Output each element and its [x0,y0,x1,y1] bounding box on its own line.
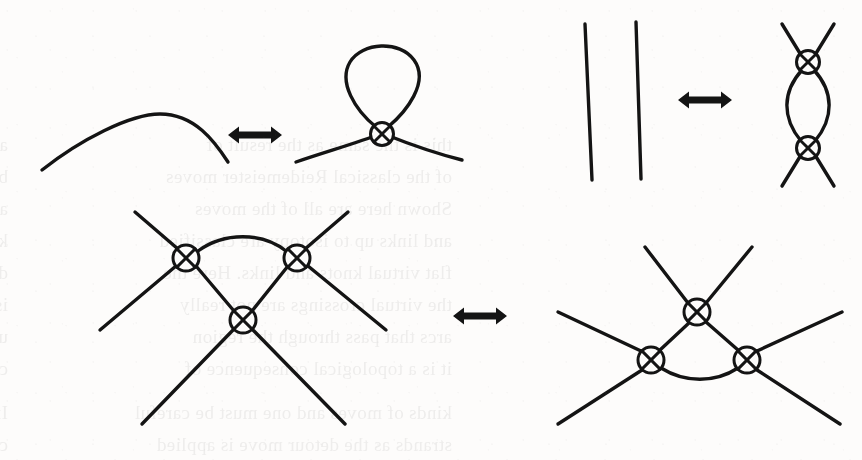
virtual-reidemeister-move-three [100,212,842,424]
strand-path [305,212,348,249]
strand-path [252,329,345,424]
strand-path [815,155,834,186]
strand-path [706,247,752,303]
strand-path [757,312,842,351]
double-headed-arrow [678,92,732,109]
strand-path [196,266,234,311]
strand-path [308,266,386,330]
figure-group [0,0,862,460]
bigon-with-two-crossings [782,24,834,186]
strand-path [142,329,234,424]
virtual-crossing-marker [684,299,710,325]
scanned-page: and there is the question of whetherby a… [0,0,862,460]
virtual-crossing-marker [284,245,310,271]
strand-path [558,370,642,424]
strand-path [661,368,738,379]
reidemeister-moves-diagram [0,0,862,460]
strand-path [585,24,592,180]
strand-path [636,22,641,179]
strand-path [782,155,801,186]
virtual-crossing-marker [734,347,760,373]
strand-path [645,247,688,303]
strand-path [660,322,690,350]
virtual-crossing-marker [638,347,664,373]
virtual-crossing-marker [797,51,820,74]
double-headed-arrow [453,308,507,325]
virtual-crossing-marker [371,123,394,146]
double-headed-arrow [228,127,282,144]
strand-path [757,370,840,424]
strand-path [814,70,829,141]
strand-path [42,114,228,170]
arc-with-kink-loop [296,46,462,162]
two-parallel-strands [585,22,641,180]
virtual-reidemeister-move-one [42,46,462,170]
strand-path [198,237,286,251]
strand-path [782,24,801,55]
strand-path [787,70,802,141]
strand-path [558,312,641,351]
strand-path [296,134,380,162]
plain-arc [42,114,228,170]
virtual-crossing-marker [797,137,820,160]
virtual-reidemeister-move-two [585,22,834,186]
strand-path [135,212,178,249]
virtual-crossing-marker [173,245,199,271]
strand-path [384,134,462,160]
triangle-arc-below [558,247,842,424]
strand-path [706,322,738,350]
strand-path [346,46,419,127]
virtual-crossing-marker [230,307,256,333]
strand-path [815,24,834,55]
strand-path [100,266,176,330]
strand-path [252,266,288,311]
triangle-arc-above [100,212,386,424]
